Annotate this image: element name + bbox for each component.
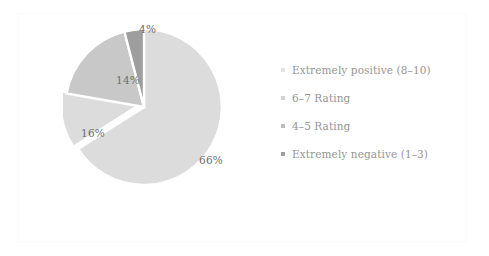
legend-item-four-five-rating[interactable]: 4–5 Rating bbox=[281, 112, 466, 140]
pie-slice-value-extremely-negative: 4% bbox=[139, 23, 156, 35]
pie-slice-value-six-seven-rating: 16% bbox=[81, 127, 105, 139]
pie-chart-area: 66% 16% 14% 4% bbox=[19, 14, 269, 243]
legend-swatch-icon bbox=[281, 96, 285, 100]
legend-swatch-icon bbox=[281, 124, 285, 128]
legend-item-label: Extremely positive (8–10) bbox=[292, 64, 431, 76]
chart-card: 66% 16% 14% 4% Extremely positive (8–10)… bbox=[18, 13, 467, 242]
legend-item-label: 6–7 Rating bbox=[292, 92, 350, 104]
chart-legend: Extremely positive (8–10) 6–7 Rating 4–5… bbox=[281, 56, 466, 168]
legend-swatch-icon bbox=[281, 152, 285, 156]
legend-item-six-seven-rating[interactable]: 6–7 Rating bbox=[281, 84, 466, 112]
pie-slice-value-four-five-rating: 14% bbox=[116, 74, 140, 86]
legend-swatch-icon bbox=[281, 68, 285, 72]
legend-item-label: 4–5 Rating bbox=[292, 120, 350, 132]
legend-item-extremely-negative[interactable]: Extremely negative (1–3) bbox=[281, 140, 466, 168]
legend-item-label: Extremely negative (1–3) bbox=[292, 148, 428, 160]
pie-slice-value-extremely-positive: 66% bbox=[199, 154, 223, 166]
legend-item-extremely-positive[interactable]: Extremely positive (8–10) bbox=[281, 56, 466, 84]
